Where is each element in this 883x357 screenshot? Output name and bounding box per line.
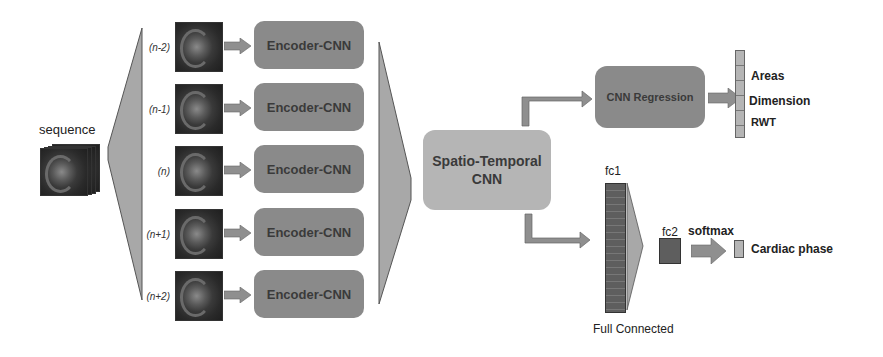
cardiac-phase-label: Cardiac phase — [751, 242, 833, 256]
fc-funnel — [0, 0, 883, 357]
softmax-arrow-icon — [691, 238, 727, 264]
fc2-label: fc2 — [662, 225, 678, 239]
cardiac-phase-output — [734, 240, 744, 258]
softmax-label: softmax — [688, 224, 734, 238]
fc2-layer — [659, 238, 681, 264]
full-connected-caption: Full Connected — [593, 322, 674, 336]
